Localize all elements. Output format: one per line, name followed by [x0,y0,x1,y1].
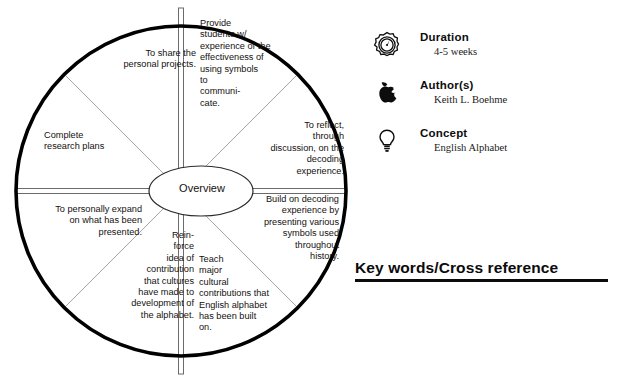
wheel-segment-reinforce: Rein- force idea of contribution that cu… [128,230,194,321]
wheel-segment-complete: Complete research plans [44,130,132,153]
lightbulb-icon [372,126,402,156]
keywords-underline [355,279,608,282]
overview-wheel-diagram: Overview Provide students w/ experience … [0,0,356,386]
info-panel: Duration 4-5 weeks Author(s) Keith L. Bo… [372,30,622,174]
info-value-duration: 4-5 weeks [434,45,622,59]
info-row-duration: Duration 4-5 weeks [372,30,622,72]
wheel-segment-build: Build on decoding experience by presenti… [251,194,339,262]
wheel-segment-provide: Provide students w/ experience of the ef… [200,18,274,109]
keywords-section: Key words/Cross reference [355,258,617,282]
wheel-segment-expand: To personally expand on what has been pr… [22,204,142,238]
info-text-concept: Concept English Alphabet [420,126,622,155]
keywords-heading: Key words/Cross reference [355,258,617,277]
apple-icon [372,78,402,108]
wheel-hub-label: Overview [152,182,252,194]
wheel-segment-reflect: To reflect, through discussion, on the d… [258,120,344,177]
info-label-concept: Concept [420,126,622,140]
info-value-authors: Keith L. Boehme [434,93,622,107]
page-root: Overview Provide students w/ experience … [0,0,634,386]
info-row-concept: Concept English Alphabet [372,126,622,168]
info-value-concept: English Alphabet [434,141,622,155]
wheel-segment-teach: Teach major cultural contributions that … [199,254,277,334]
info-text-duration: Duration 4-5 weeks [420,30,622,59]
info-label-authors: Author(s) [420,78,622,92]
stopwatch-icon [372,30,402,60]
info-label-duration: Duration [420,30,622,44]
wheel-segment-share: To share the personal projects. [118,48,196,71]
info-row-authors: Author(s) Keith L. Boehme [372,78,622,120]
info-text-authors: Author(s) Keith L. Boehme [420,78,622,107]
